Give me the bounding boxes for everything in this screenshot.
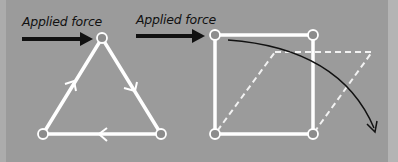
applied-force-arrow-left-icon <box>22 32 93 46</box>
applied-force-arrow-right-icon <box>136 29 205 43</box>
diagram-canvas: Applied force Applied force <box>0 0 398 162</box>
joint-node-icon <box>308 129 318 139</box>
joint-node-icon <box>38 129 48 139</box>
square-frame <box>210 30 318 139</box>
deformed-parallelogram <box>215 52 372 134</box>
joint-node-icon <box>156 129 166 139</box>
triangle-frame <box>38 33 166 141</box>
joint-node-icon <box>97 33 107 43</box>
joint-node-icon <box>308 30 318 40</box>
diagram-svg <box>0 0 398 162</box>
joint-node-icon <box>210 30 220 40</box>
joint-node-icon <box>210 129 220 139</box>
